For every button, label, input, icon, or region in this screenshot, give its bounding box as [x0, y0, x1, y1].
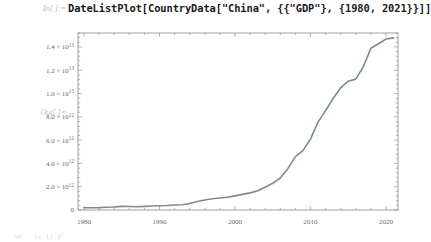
date-list-plot[interactable]: 02.0 × 10124.0 × 10126.0 × 10128.0 × 101… [0, 26, 413, 232]
svg-text:2000: 2000 [228, 218, 243, 226]
ghost-text: W GDP [14, 234, 68, 241]
input-code-text[interactable]: DateListPlot[CountryData["China", {{"GDP… [68, 2, 431, 14]
svg-text:1.2 × 1013: 1.2 × 1013 [46, 65, 74, 75]
bottom-cut-off-strip: W GDP [0, 234, 413, 242]
svg-text:4.0 × 1012: 4.0 × 1012 [46, 158, 74, 168]
svg-text:1.4 × 1013: 1.4 × 1013 [46, 42, 74, 52]
svg-text:1980: 1980 [77, 218, 92, 226]
svg-text:8.0 × 1012: 8.0 × 1012 [46, 112, 74, 122]
notebook-input-cell[interactable]: In[ ]:= DateListPlot[CountryData["China"… [0, 0, 413, 24]
plot-background [78, 33, 398, 210]
input-prompt-label: In[ ]:= [22, 4, 66, 13]
y-axis-tick-labels: 02.0 × 10124.0 × 10126.0 × 10128.0 × 101… [46, 42, 74, 215]
notebook-output-cell[interactable]: 02.0 × 10124.0 × 10126.0 × 10128.0 × 101… [0, 26, 413, 232]
svg-text:2020: 2020 [379, 218, 394, 226]
x-axis-tick-labels: 19801990200020102020 [77, 218, 394, 226]
svg-text:6.0 × 1012: 6.0 × 1012 [46, 135, 74, 145]
svg-text:2010: 2010 [303, 218, 318, 226]
svg-text:2.0 × 1012: 2.0 × 1012 [46, 182, 74, 192]
svg-text:1990: 1990 [152, 218, 167, 226]
svg-text:0: 0 [70, 206, 74, 214]
svg-text:1.0 × 1013: 1.0 × 1013 [46, 88, 74, 98]
